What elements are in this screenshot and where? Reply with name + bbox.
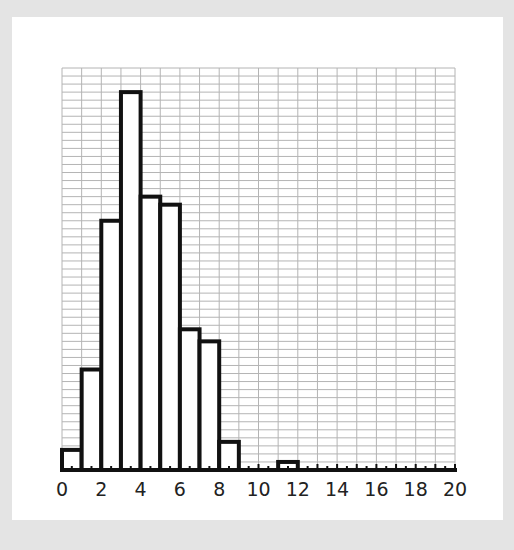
x-tick-label: 0 xyxy=(56,478,68,500)
histogram-bar xyxy=(121,92,141,470)
x-tick-label: 12 xyxy=(286,478,310,500)
x-axis-tick-labels: 02468101214161820 xyxy=(56,478,467,500)
histogram-bar xyxy=(180,329,200,470)
histogram-bar xyxy=(200,341,220,470)
x-tick-label: 6 xyxy=(174,478,186,500)
x-tick-label: 18 xyxy=(404,478,428,500)
x-tick-label: 10 xyxy=(246,478,270,500)
histogram-bar xyxy=(82,370,102,471)
histogram-chart: 02468101214161820 xyxy=(0,0,514,550)
x-tick-label: 4 xyxy=(135,478,147,500)
x-tick-label: 14 xyxy=(325,478,349,500)
histogram-bar xyxy=(141,197,161,470)
x-tick-label: 2 xyxy=(95,478,107,500)
x-tick-label: 8 xyxy=(213,478,225,500)
histogram-bar xyxy=(160,205,180,470)
x-tick-label: 16 xyxy=(364,478,388,500)
histogram-bar xyxy=(101,221,121,470)
x-tick-label: 20 xyxy=(443,478,467,500)
histogram-bar xyxy=(219,442,239,470)
